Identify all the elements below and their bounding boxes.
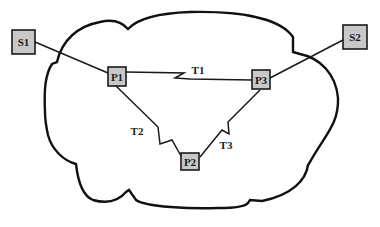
network-cloud bbox=[45, 12, 338, 208]
tunnel-t2 bbox=[116, 86, 181, 156]
node-p2[interactable]: P2 bbox=[181, 153, 199, 170]
node-p1-label: P1 bbox=[111, 71, 123, 83]
network-diagram: T1 T2 T3 S1 S2 P1 P2 P3 bbox=[0, 0, 380, 227]
node-s2[interactable]: S2 bbox=[343, 25, 367, 49]
label-t3: T3 bbox=[220, 139, 233, 151]
tunnel-t1 bbox=[126, 72, 252, 80]
node-s2-label: S2 bbox=[349, 31, 361, 43]
link-s1-p1 bbox=[35, 42, 108, 73]
node-s1[interactable]: S1 bbox=[12, 30, 35, 54]
node-p1[interactable]: P1 bbox=[108, 67, 126, 86]
node-s1-label: S1 bbox=[18, 36, 30, 48]
label-t2: T2 bbox=[131, 125, 144, 137]
node-p3-label: P3 bbox=[255, 74, 268, 86]
node-p2-label: P2 bbox=[184, 156, 197, 168]
link-s2-p3 bbox=[270, 40, 343, 78]
label-t1: T1 bbox=[192, 64, 205, 76]
node-p3[interactable]: P3 bbox=[252, 70, 270, 89]
